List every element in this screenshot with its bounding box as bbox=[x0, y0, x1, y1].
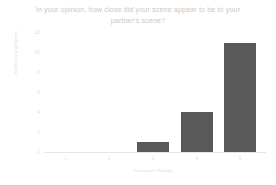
y-tick-label: 12 bbox=[26, 30, 40, 35]
y-tick-label: 8 bbox=[26, 70, 40, 75]
x-tick-label: 3 bbox=[131, 155, 175, 161]
y-tick-label: 0 bbox=[26, 149, 40, 154]
y-axis-tick-labels: 121086420 bbox=[26, 33, 40, 152]
x-tick-label: 5 bbox=[218, 155, 262, 161]
y-tick-label: 10 bbox=[26, 50, 40, 55]
plot-area bbox=[44, 33, 262, 152]
x-tick-label: 4 bbox=[175, 155, 219, 161]
chart-title: In your opinion, how close did your scen… bbox=[14, 4, 262, 26]
bar bbox=[137, 142, 169, 152]
x-axis-tick-labels: 12345 bbox=[44, 155, 262, 163]
x-tick-label: 2 bbox=[88, 155, 132, 161]
x-axis-line bbox=[44, 152, 266, 153]
bar-slot bbox=[44, 33, 88, 152]
y-axis-title: Number of participants bbox=[13, 17, 18, 89]
y-tick-label: 6 bbox=[26, 90, 40, 95]
x-axis-title: Participants Ratings bbox=[44, 168, 262, 173]
bar-slot bbox=[88, 33, 132, 152]
y-tick-label: 4 bbox=[26, 110, 40, 115]
y-tick-label: 2 bbox=[26, 130, 40, 135]
bar bbox=[224, 43, 256, 152]
bar-chart: In your opinion, how close did your scen… bbox=[0, 0, 276, 185]
bar-slot bbox=[218, 33, 262, 152]
bar bbox=[181, 112, 213, 152]
bar-slot bbox=[175, 33, 219, 152]
x-tick-label: 1 bbox=[44, 155, 88, 161]
bar-slot bbox=[131, 33, 175, 152]
